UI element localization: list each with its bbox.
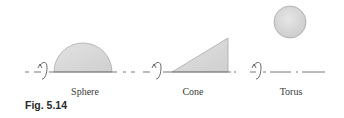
rotation-arrow-icon bbox=[38, 62, 47, 79]
disk-shape bbox=[274, 6, 306, 38]
cone-label: Cone bbox=[182, 86, 203, 97]
sphere-panel bbox=[25, 43, 135, 79]
rotation-arrow-icon bbox=[152, 62, 161, 79]
figure-5-14: Sphere Cone Torus Fig. 5.14 bbox=[0, 0, 344, 118]
torus-panel bbox=[250, 6, 325, 79]
torus-label: Torus bbox=[280, 86, 303, 97]
right-triangle-shape bbox=[172, 38, 228, 72]
half-disk-shape bbox=[54, 43, 112, 72]
sphere-label: Sphere bbox=[71, 86, 99, 97]
rotation-arrow-icon bbox=[252, 62, 261, 79]
figure-caption: Fig. 5.14 bbox=[25, 99, 67, 111]
cone-panel bbox=[143, 38, 236, 79]
